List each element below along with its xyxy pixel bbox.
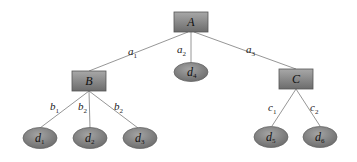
edge-label-c2: c2 xyxy=(310,101,319,116)
edge-b-d2 xyxy=(89,91,90,128)
edge-label-a2: a2 xyxy=(177,43,187,58)
edge-label-b1: b1 xyxy=(50,100,60,115)
node-d4: d4 xyxy=(174,63,208,82)
edge-label-c1: c1 xyxy=(268,101,277,116)
node-d5: d5 xyxy=(254,127,288,148)
node-a: A xyxy=(174,12,208,32)
edge-label-a3: a3 xyxy=(246,43,256,58)
tree-diagram: a1 a2 a3 b1 b2 b2 c1 c2 A B C xyxy=(0,0,357,162)
node-b: B xyxy=(72,71,106,91)
node-label-a: A xyxy=(186,15,195,29)
node-label-b: B xyxy=(85,74,93,88)
edge-a-c xyxy=(194,32,296,69)
node-c: C xyxy=(279,69,313,89)
edge-label-b2-second: b2 xyxy=(114,100,124,115)
node-d1: d1 xyxy=(23,128,57,149)
node-d6: d6 xyxy=(303,127,337,148)
node-d3: d3 xyxy=(123,128,157,149)
edge-label-b2: b2 xyxy=(78,100,88,115)
node-d2: d2 xyxy=(73,128,107,149)
node-label-c: C xyxy=(292,72,301,86)
edge-label-a1: a1 xyxy=(128,45,138,60)
edge-a-b xyxy=(89,32,188,71)
